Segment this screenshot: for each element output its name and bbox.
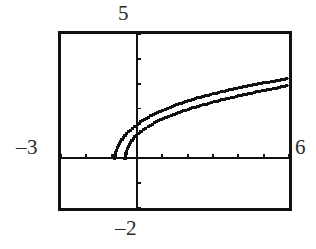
x-min-label: –3 <box>16 137 38 158</box>
x-max-label: 6 <box>295 137 306 158</box>
axes-group <box>61 34 289 208</box>
plot-graphics <box>61 34 289 208</box>
y-max-label: 5 <box>118 3 129 24</box>
y-min-label: –2 <box>115 218 137 239</box>
plot-window <box>58 31 292 211</box>
figure-canvas: 5 –3 6 –2 <box>0 0 316 249</box>
series-group <box>113 77 289 159</box>
